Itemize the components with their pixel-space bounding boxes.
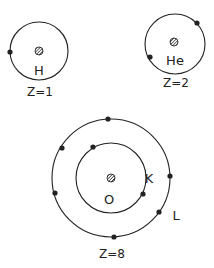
bohr-atom-diagram: H Z=1 He Z=2 K O L Z=8	[0, 0, 214, 268]
nucleus	[35, 47, 43, 55]
electron	[140, 191, 145, 196]
shell-label-K: K	[145, 171, 154, 186]
electron	[7, 49, 12, 54]
element-symbol: O	[104, 192, 114, 207]
electron	[156, 209, 161, 214]
nucleus	[107, 174, 115, 182]
helium-atom: He Z=2	[145, 14, 205, 90]
electron	[105, 116, 110, 121]
atomic-number-label: Z=1	[27, 85, 53, 99]
oxygen-atom: K O L Z=8	[52, 116, 180, 261]
nucleus	[170, 38, 178, 46]
hydrogen-atom: H Z=1	[7, 22, 68, 99]
electron	[111, 234, 116, 239]
atomic-number-label: Z=2	[163, 76, 189, 90]
element-symbol: He	[166, 53, 184, 68]
electron	[90, 144, 95, 149]
shell-label-L: L	[172, 208, 180, 223]
electron	[194, 20, 199, 25]
electron	[52, 190, 57, 195]
atomic-number-label: Z=8	[99, 247, 125, 261]
electron	[59, 145, 64, 150]
electron	[147, 54, 152, 59]
electron	[167, 173, 172, 178]
element-symbol: H	[34, 63, 44, 78]
